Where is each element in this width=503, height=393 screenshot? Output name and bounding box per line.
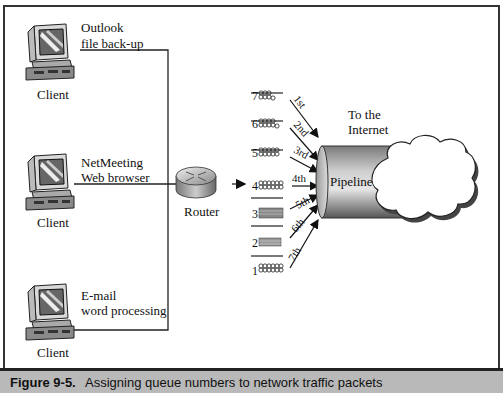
order-label-1st: 1st	[291, 93, 308, 111]
client-2-app-line-2: Web browser	[81, 170, 150, 186]
order-label-4th: 4th	[292, 172, 307, 184]
packets-queue-4	[259, 181, 283, 189]
order-label-3rd: 3rd	[292, 143, 311, 161]
internet-label-line-1: To the	[348, 107, 381, 123]
queue-number-3: 3	[252, 207, 258, 221]
figure-number: Figure 9-5.	[10, 375, 76, 390]
client-1-app-line-2: file back-up	[81, 36, 143, 52]
queue-number-7: 7	[252, 89, 258, 103]
queue-number-2: 2	[252, 236, 258, 250]
packets-queue-1	[259, 264, 283, 272]
internet-label-line-2: Internet	[348, 122, 388, 138]
queue-stack: 7 6 5 4 3 2 1	[251, 89, 283, 278]
packets-queue-3	[259, 208, 283, 218]
order-label-5th: 5th	[293, 193, 311, 210]
router-label: Router	[184, 204, 219, 220]
client-2-label: Client	[37, 215, 69, 231]
figure-caption: Assigning queue numbers to network traff…	[85, 375, 382, 390]
order-label-6th: 6th	[288, 215, 307, 234]
figure-caption-bar: Figure 9-5. Assigning queue numbers to n…	[0, 368, 503, 393]
order-label-7th: 7th	[286, 244, 304, 263]
client-2-app-line-1: NetMeeting	[81, 155, 143, 171]
client-3-app-line-2: word processing	[81, 303, 167, 319]
packets-queue-2	[259, 238, 281, 246]
packets-queue-5	[259, 148, 279, 156]
queue-number-1: 1	[252, 264, 258, 278]
client-3-app-line-1: E-mail	[81, 288, 116, 304]
router-icon	[176, 167, 216, 198]
client-3-label: Client	[37, 345, 69, 361]
client-1-app-line-1: Outlook	[81, 20, 124, 36]
queue-number-5: 5	[252, 146, 258, 160]
pipeline-label: Pipeline	[330, 174, 373, 189]
internet-cloud-icon	[372, 135, 478, 222]
packets-queue-7	[259, 91, 275, 100]
packets-queue-6	[259, 119, 279, 128]
queue-number-6: 6	[252, 117, 258, 131]
network-diagram: 7 6 5 4 3 2 1	[0, 0, 503, 370]
client-computer-icon-3	[26, 284, 74, 340]
client-1-label: Client	[37, 87, 69, 103]
order-label-2nd: 2nd	[292, 118, 312, 139]
client-computer-icon-1	[26, 24, 74, 80]
client-computer-icon-2	[26, 154, 74, 210]
queue-number-4: 4	[252, 179, 258, 193]
